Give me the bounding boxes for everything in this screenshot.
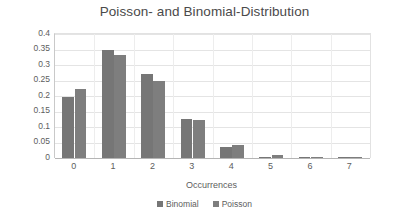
bar-poisson-7	[350, 157, 362, 158]
y-tick-label: 0.4	[6, 29, 50, 38]
bar-poisson-6	[311, 157, 323, 158]
x-tick-label: 0	[54, 161, 93, 171]
y-tick-label: 0.35	[6, 44, 50, 53]
x-axis-title: Occurrences	[54, 180, 369, 190]
bar-binomial-5	[259, 157, 271, 158]
x-tick-label: 7	[330, 161, 369, 171]
bar-binomial-0	[62, 97, 74, 158]
legend-label: Poisson	[222, 199, 252, 209]
gridline-vertical	[134, 34, 135, 158]
bar-binomial-3	[181, 119, 193, 158]
y-tick-label: 0.25	[6, 75, 50, 84]
x-tick-label: 6	[290, 161, 329, 171]
chart-legend: BinomialPoisson	[0, 199, 409, 209]
gridline-vertical	[94, 34, 95, 158]
bar-binomial-2	[141, 74, 153, 158]
x-tick-label: 1	[93, 161, 132, 171]
bar-binomial-1	[102, 50, 114, 158]
y-tick-label: 0.1	[6, 122, 50, 131]
gridline	[55, 158, 370, 159]
gridline-vertical	[173, 34, 174, 158]
bar-binomial-4	[220, 147, 232, 158]
gridline-vertical	[213, 34, 214, 158]
y-tick-label: 0.3	[6, 60, 50, 69]
bar-binomial-6	[299, 157, 311, 158]
y-tick-label: 0.05	[6, 137, 50, 146]
x-tick-label: 4	[212, 161, 251, 171]
bar-poisson-5	[272, 155, 284, 158]
plot-area	[54, 33, 371, 158]
x-tick-label: 3	[172, 161, 211, 171]
gridline-vertical	[252, 34, 253, 158]
legend-item-poisson[interactable]: Poisson	[213, 199, 252, 209]
chart-title: Poisson- and Binomial-Distribution	[0, 4, 409, 19]
bar-poisson-1	[114, 55, 126, 158]
y-tick-label: 0.2	[6, 91, 50, 100]
bar-poisson-3	[193, 120, 205, 158]
bar-poisson-4	[232, 145, 244, 158]
chart-container: Poisson- and Binomial-Distribution Proba…	[0, 0, 409, 222]
x-tick-label: 2	[133, 161, 172, 171]
y-tick-label: 0.15	[6, 106, 50, 115]
legend-swatch-icon	[157, 201, 163, 207]
legend-swatch-icon	[213, 201, 219, 207]
bar-poisson-0	[75, 89, 87, 158]
x-tick-label: 5	[251, 161, 290, 171]
bar-poisson-2	[153, 81, 165, 158]
legend-item-binomial[interactable]: Binomial	[157, 199, 199, 209]
y-axis-tick-labels: 00.050.10.150.20.250.30.350.4	[4, 33, 50, 157]
gridline-vertical	[291, 34, 292, 158]
legend-label: Binomial	[166, 199, 199, 209]
gridline-vertical	[331, 34, 332, 158]
y-tick-label: 0	[6, 153, 50, 162]
x-axis-tick-labels: 01234567	[54, 161, 369, 175]
bar-binomial-7	[338, 157, 350, 158]
